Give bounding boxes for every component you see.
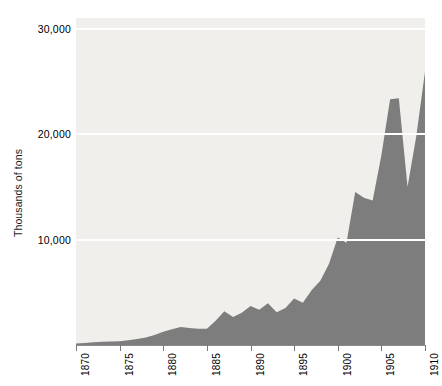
x-tick-label: 1910	[429, 353, 440, 376]
x-tick-label: 1870	[80, 353, 91, 376]
y-tick-label: 10,000	[20, 234, 76, 246]
x-tick-label: 1895	[298, 353, 309, 376]
x-tick-label: 1905	[385, 353, 396, 376]
y-tick-label: 30,000	[20, 23, 76, 35]
x-tick-mark	[163, 345, 164, 351]
x-tick-mark	[251, 345, 252, 351]
area-series-svg	[76, 18, 425, 345]
x-tick-label: 1880	[167, 353, 178, 376]
y-tick-label: 20,000	[20, 128, 76, 140]
x-tick-label: 1875	[124, 353, 135, 376]
area-series-path	[76, 72, 425, 345]
x-tick-label: 1900	[342, 353, 353, 376]
chart-container: Thousands of tons 10,00020,00030,000 187…	[0, 0, 442, 386]
x-tick-label: 1885	[211, 353, 222, 376]
y-axis-tick-labels: 10,00020,00030,000	[20, 0, 76, 386]
x-tick-mark	[207, 345, 208, 351]
plot-area	[76, 18, 425, 345]
x-tick-mark	[294, 345, 295, 351]
x-tick-mark	[338, 345, 339, 351]
gridline	[76, 239, 425, 241]
x-tick-mark	[381, 345, 382, 351]
gridline	[76, 28, 425, 30]
gridline	[76, 133, 425, 135]
x-tick-mark	[76, 345, 77, 351]
x-axis-tick-labels: 187018751880188518901895190019051910	[0, 345, 442, 386]
x-tick-mark	[120, 345, 121, 351]
x-tick-label: 1890	[255, 353, 266, 376]
x-tick-mark	[425, 345, 426, 351]
